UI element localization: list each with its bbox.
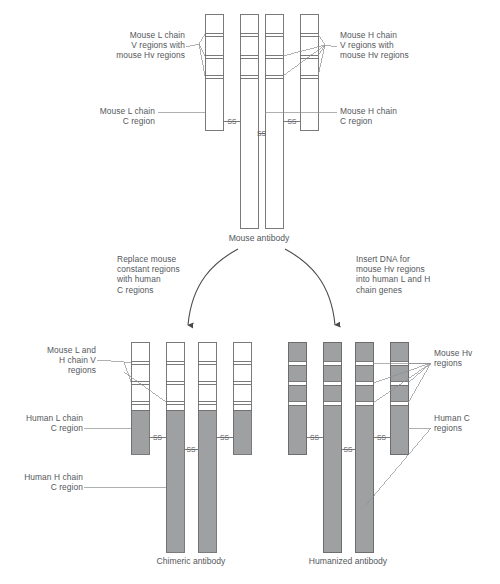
label-mouse-l-chain-c-region: Mouse L chain C region	[50, 106, 155, 126]
ss-label: SS	[187, 446, 196, 453]
humanized-light-chain-right	[390, 342, 408, 454]
label-human-c-regions: Human C regions	[434, 413, 500, 433]
top-light-chain-right	[300, 14, 318, 130]
ss-label: SS	[228, 118, 237, 125]
label-mouse-h-chain-v-regions: Mouse H chain V regions with mouse Hv re…	[340, 30, 475, 61]
figure-bottom-caption-clipped	[0, 571, 500, 584]
label-mouse-v-regions-chimeric: Mouse L and H chain V regions	[0, 345, 96, 376]
ss-label: SS	[344, 446, 353, 453]
arrow-to-humanized	[285, 249, 335, 325]
top-left-v-leaders	[186, 34, 205, 76]
chimeric-light-chain-right	[233, 342, 251, 454]
caption-mouse-antibody: Mouse antibody	[199, 233, 319, 243]
label-mouse-h-chain-c-region: Mouse H chain C region	[340, 106, 460, 126]
humanized-heavy-chain-left	[323, 342, 341, 552]
chimeric-heavy-chain-left	[166, 342, 184, 552]
chimeric-light-chain-left	[131, 342, 149, 454]
ss-label: SS	[377, 434, 386, 441]
top-light-chain-left	[205, 14, 223, 130]
label-insert-dna-hv-regions: Insert DNA for mouse Hv regions into hum…	[356, 254, 476, 295]
ss-label: SS	[288, 118, 297, 125]
label-human-h-chain-c-region: Human H chain C region	[0, 472, 83, 492]
chimeric-heavy-chain-right	[198, 342, 216, 552]
ss-label: SS	[153, 434, 162, 441]
caption-humanized-antibody: Humanized antibody	[288, 556, 408, 566]
humanized-light-chain-left	[288, 342, 306, 454]
ss-label: SS	[310, 434, 319, 441]
ss-label: SS	[220, 434, 229, 441]
label-replace-constant-regions: Replace mouse constant regions with huma…	[117, 254, 217, 295]
humanized-heavy-chain-right	[355, 342, 373, 552]
ss-label: SS	[257, 130, 266, 137]
antibody-humanization-diagram: SS SS SS SS SS SS SS SS SS Mouse L chain…	[0, 0, 500, 584]
top-heavy-chain-left	[240, 14, 258, 228]
label-human-l-chain-c-region: Human L chain C region	[0, 413, 83, 433]
top-heavy-chain-right	[265, 14, 283, 228]
label-mouse-hv-regions-humanized: Mouse Hv regions	[434, 348, 500, 368]
caption-chimeric-antibody: Chimeric antibody	[131, 556, 251, 566]
label-mouse-l-chain-v-regions: Mouse L chain V regions with mouse Hv re…	[70, 30, 185, 61]
